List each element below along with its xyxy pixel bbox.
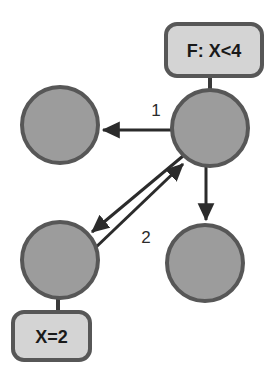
node-top-left[interactable]: [22, 87, 98, 163]
edge-top-right-to-bottom-left: [92, 156, 183, 232]
node-bottom-right[interactable]: [167, 225, 243, 301]
diagram-svg: F: X<4 X=2 1 2: [0, 0, 270, 384]
diagram-canvas: F: X<4 X=2 1 2: [0, 0, 270, 384]
node-bottom-left[interactable]: [22, 222, 98, 298]
node-top-right[interactable]: [172, 90, 248, 166]
assignment-label-text: X=2: [35, 327, 68, 347]
formula-label-text: F: X<4: [187, 41, 242, 61]
edge-label-1: 1: [151, 101, 160, 120]
edge-label-2: 2: [141, 228, 150, 247]
edge-bottom-left-to-top-right: [93, 164, 183, 250]
